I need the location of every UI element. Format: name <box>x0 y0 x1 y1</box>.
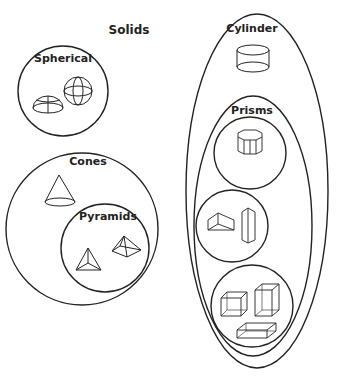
prisms-label: Prisms <box>231 104 273 117</box>
triangular-prism-set <box>196 190 268 262</box>
cones-label: Cones <box>69 155 106 168</box>
rectangular-prism-flat-icon <box>237 323 276 338</box>
octagonal-prism-icon <box>238 130 262 154</box>
triangular-pyramid-icon <box>76 248 101 270</box>
square-pyramid-icon <box>112 236 141 257</box>
cone-icon <box>45 175 75 206</box>
sphere-icon <box>64 77 92 105</box>
diagram-title: Solids <box>109 23 150 37</box>
cones-set <box>6 153 158 305</box>
rectangular-prism-set <box>211 265 293 347</box>
prisms-set <box>194 96 312 356</box>
triangular-prism-tall-icon <box>242 208 255 243</box>
cylinder-set <box>186 14 328 368</box>
cube-icon <box>221 292 247 316</box>
hemisphere-icon <box>33 96 63 113</box>
cylinder-label: Cylinder <box>226 22 277 35</box>
pyramids-label: Pyramids <box>79 210 137 223</box>
cylinder-icon <box>237 45 269 72</box>
rectangular-prism-tall-icon <box>255 284 279 316</box>
triangular-prism-icon <box>208 213 234 230</box>
spherical-label: Spherical <box>34 52 92 65</box>
